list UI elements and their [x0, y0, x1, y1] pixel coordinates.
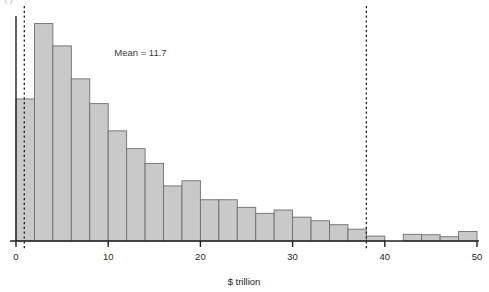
histogram-bar	[34, 24, 52, 241]
x-axis-tick-label: 10	[103, 251, 114, 262]
histogram-bar	[108, 131, 126, 241]
histogram-bar	[311, 221, 329, 241]
mean-annotation: Mean = 11.7	[114, 47, 166, 58]
histogram-bar	[422, 235, 440, 241]
histogram-bar	[348, 229, 366, 241]
histogram-plot: 01020304050 Mean = 11.7 $ trillion	[0, 0, 489, 292]
x-axis-tick-label: 0	[13, 251, 18, 262]
histogram-bar	[53, 46, 71, 241]
histogram-bar	[366, 236, 384, 241]
histogram-bar	[403, 234, 421, 241]
histogram-bar	[329, 225, 347, 241]
histogram-bar	[256, 213, 274, 241]
histogram-bar	[237, 207, 255, 241]
histogram-bar	[293, 217, 311, 241]
x-axis-title: $ trillion	[228, 276, 261, 287]
histogram-bar	[90, 104, 108, 241]
histogram-bar	[16, 99, 34, 241]
histogram-bar	[71, 79, 89, 241]
histogram-bar	[164, 186, 182, 241]
x-axis-tick-label: 40	[380, 251, 391, 262]
histogram-bar	[182, 181, 200, 241]
x-axis-tick-label: 30	[287, 251, 298, 262]
histogram-bar	[274, 210, 292, 241]
histogram-bar	[127, 149, 145, 241]
histogram-bar	[219, 200, 237, 241]
histogram-bar	[145, 163, 163, 241]
bars-group	[16, 24, 477, 241]
histogram-bar	[459, 231, 477, 241]
xtick-labels-group: 01020304050	[13, 251, 482, 262]
figure-container: ( ) 01020304050 Mean = 11.7 $ trillion	[0, 0, 489, 292]
x-axis-tick-label: 20	[195, 251, 206, 262]
histogram-bar	[200, 200, 218, 241]
x-axis-tick-label: 50	[472, 251, 483, 262]
